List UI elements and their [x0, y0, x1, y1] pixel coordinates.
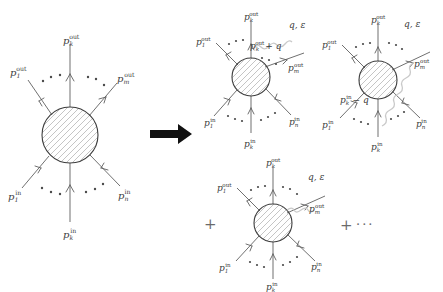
label-p-in-n-p2: pnin	[289, 116, 300, 128]
label-p-out-m-p2: pmout	[288, 62, 304, 74]
incoming-legs-panel1	[22, 155, 120, 222]
arrowhead-p-in-n-p3	[402, 98, 409, 105]
label-photon-p2: q, ε	[289, 20, 305, 30]
label-p-out-k: pkout	[63, 33, 80, 47]
label-p-out-1: p1out	[10, 65, 27, 79]
blob-panel3	[359, 61, 397, 99]
label-p-in-k: pkin	[63, 227, 76, 241]
trailing-ellipsis: ···	[356, 217, 374, 232]
label-photon-p4: q, ε	[308, 172, 324, 182]
label-p-in-1-p2: p1in	[204, 117, 216, 129]
label-p-out-m-p3: pmout	[414, 58, 430, 70]
plus-sign-left: +	[204, 215, 217, 233]
label-p-in-n: pnin	[118, 188, 130, 202]
leg-p-out-1-p4	[237, 188, 260, 211]
label-p-in-k-minus-q: pkin− q	[340, 94, 369, 106]
leg-p-in-1	[22, 156, 49, 188]
label-p-in-1: p1in	[8, 189, 21, 203]
blob-panel4	[254, 204, 292, 242]
label-p-out-k-p3: pkout	[371, 14, 386, 26]
leg-p-out-m	[89, 83, 117, 116]
label-p-out-1-p3: p1out	[322, 39, 337, 51]
label-photon-p3: q, ε	[404, 19, 420, 29]
diagram-canvas: p1out pkout pmout p1in pkin pnin	[0, 0, 443, 292]
panel-emission-from-blob: p1out pkout pmout p1in pkin pnin q, ε	[217, 157, 325, 292]
leg-p-out-1	[28, 80, 52, 115]
leg-p-in-n-p2	[266, 89, 291, 115]
label-p-in-k-p3: pkin	[371, 141, 383, 153]
panel-hard-amplitude: p1out pkout pmout p1in pkin pnin	[8, 33, 135, 241]
label-p-in-n-p4: pnin	[311, 261, 322, 273]
label-p-in-k-p4: pkin	[266, 281, 278, 292]
ellipsis-dots-panel1	[41, 74, 105, 195]
label-p-out-1-p4: p1out	[217, 182, 232, 194]
leg-p-out-1-p3	[342, 45, 365, 68]
leg-p-in-1-p2	[214, 90, 237, 116]
blob-panel2	[232, 58, 270, 96]
leg-p-in-n-p3	[393, 92, 420, 118]
label-p-out-k-plus-q: pkout+ q	[250, 40, 282, 52]
arrowhead-p-in-n-p4	[297, 241, 304, 248]
label-p-in-1-p3: p1in	[322, 119, 334, 131]
label-p-out-k-p2: pkout	[244, 11, 259, 23]
leg-p-in-n	[90, 155, 120, 186]
implies-arrow	[150, 124, 192, 144]
panel-emission-from-incoming-leg: p1out pkout pmout p1in pkin pnin q, ε pk…	[322, 14, 430, 153]
label-p-out-1-p2: p1out	[196, 36, 211, 48]
arrowhead-p-in-n	[101, 163, 108, 170]
label-p-in-1-p4: p1in	[219, 262, 231, 274]
label-p-in-k-p2: pkin	[244, 138, 256, 150]
arrowhead-p-in-n-p2	[275, 94, 281, 101]
label-p-out-m: pmout	[117, 71, 135, 85]
leg-p-in-1-p4	[236, 236, 259, 261]
outgoing-legs-panel1	[28, 44, 117, 116]
blob-panel1	[36, 105, 106, 175]
leg-p-in-n-p4	[288, 235, 315, 261]
label-p-out-m-p4: pmout	[309, 203, 325, 215]
label-p-out-k-p4: pkout	[266, 157, 281, 169]
plus-sign-right: +	[340, 216, 353, 234]
panel-emission-from-outgoing-leg: p1out pkout pmout p1in pkin pnin q, ε pk…	[196, 11, 305, 150]
label-p-in-n-p3: pnin	[416, 118, 427, 130]
